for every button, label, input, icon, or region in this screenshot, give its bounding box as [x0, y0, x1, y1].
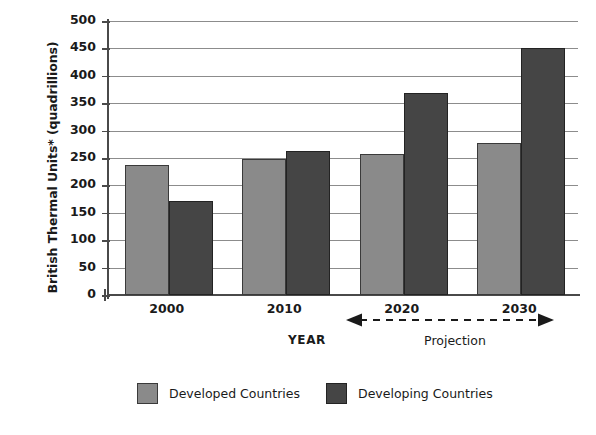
y-axis-tick-label: 200 [52, 178, 96, 191]
legend-item-developed[interactable]: Developed Countries [137, 383, 300, 404]
legend-swatch-icon [326, 383, 347, 404]
legend-swatch-icon [137, 383, 158, 404]
legend-label: Developed Countries [169, 386, 300, 401]
x-axis-title: YEAR [262, 333, 352, 347]
y-axis-tick [102, 295, 110, 297]
bar-2030-developed [477, 143, 521, 295]
projection-arrow-icon [344, 312, 556, 328]
y-axis-tick-label: 100 [52, 233, 96, 246]
projection-label: Projection [400, 333, 510, 348]
bar-2010-developed [242, 159, 286, 295]
legend-label: Developing Countries [358, 386, 493, 401]
y-axis-tick-label: 350 [52, 96, 96, 109]
y-axis-tick-label: 250 [52, 151, 96, 164]
bar-2030-developing [521, 48, 565, 295]
bar-2000-developing [169, 201, 213, 295]
y-axis-tick-label: 50 [52, 261, 96, 274]
legend-item-developing[interactable]: Developing Countries [326, 383, 493, 404]
y-axis-tick-label: 400 [52, 69, 96, 82]
y-axis-tick-label: 150 [52, 206, 96, 219]
bar-2020-developed [360, 154, 404, 295]
bar-2020-developing [404, 93, 448, 295]
bar-group-container [108, 21, 578, 295]
y-axis-tick-label: 0 [52, 288, 96, 301]
y-axis-tick-label: 300 [52, 124, 96, 137]
y-axis-tick-label: 500 [52, 14, 96, 27]
bar-2000-developed [125, 165, 169, 295]
bar-2010-developing [286, 151, 330, 295]
x-axis-tick-label-2010: 2010 [244, 301, 324, 316]
y-axis-tick-labels: 050100150200250300350400450500 [52, 0, 96, 435]
bar-chart-figure: British Thermal Units* (quadrillions) 05… [0, 0, 596, 435]
x-axis-tick-label-2000: 2000 [127, 301, 207, 316]
y-axis-tick-label: 450 [52, 41, 96, 54]
chart-legend: Developed CountriesDeveloping Countries [137, 383, 493, 404]
